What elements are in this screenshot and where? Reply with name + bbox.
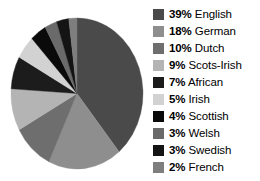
chart-legend: 39% English18% German10% Dutch9% Scots-I… xyxy=(153,6,260,178)
legend-item-text: 9% Scots-Irish xyxy=(169,59,242,72)
legend-item[interactable]: 3% Welsh xyxy=(153,125,260,142)
pie-chart-figure: 39% English18% German10% Dutch9% Scots-I… xyxy=(0,0,260,181)
legend-item-text: 18% German xyxy=(169,25,236,38)
legend-item-text: 5% Irish xyxy=(169,93,210,106)
legend-item[interactable]: 5% Irish xyxy=(153,91,260,108)
legend-item-percent: 5% xyxy=(169,93,185,105)
legend-item-label: German xyxy=(192,25,236,37)
legend-item-label: African xyxy=(185,76,223,88)
legend-item-percent: 2% xyxy=(169,161,185,173)
legend-swatch-french xyxy=(153,162,164,173)
legend-item-label: Scottish xyxy=(185,110,228,122)
legend-item-label: Irish xyxy=(185,93,209,105)
legend-item-label: English xyxy=(192,8,232,20)
legend-swatch-african xyxy=(153,77,164,88)
legend-item-percent: 4% xyxy=(169,110,185,122)
legend-swatch-irish xyxy=(153,94,164,105)
legend-item-text: 39% English xyxy=(169,8,232,21)
legend-item[interactable]: 18% German xyxy=(153,23,260,40)
legend-item-text: 3% Welsh xyxy=(169,127,220,140)
legend-swatch-scottish xyxy=(153,111,164,122)
legend-item[interactable]: 39% English xyxy=(153,6,260,23)
legend-item-label: Swedish xyxy=(185,144,231,156)
legend-item-label: Welsh xyxy=(185,127,219,139)
legend-item-percent: 9% xyxy=(169,59,185,71)
legend-item[interactable]: 10% Dutch xyxy=(153,40,260,57)
legend-item-label: Scots-Irish xyxy=(185,59,241,71)
legend-item-percent: 10% xyxy=(169,42,192,54)
legend-item-percent: 3% xyxy=(169,127,185,139)
legend-item-text: 10% Dutch xyxy=(169,42,224,55)
pie-chart-svg xyxy=(10,17,144,170)
legend-item-label: Dutch xyxy=(192,42,225,54)
legend-swatch-english xyxy=(153,9,164,20)
legend-swatch-dutch xyxy=(153,43,164,54)
legend-item-percent: 18% xyxy=(169,25,192,37)
legend-item-percent: 7% xyxy=(169,76,185,88)
legend-item[interactable]: 7% African xyxy=(153,74,260,91)
legend-item-text: 7% African xyxy=(169,76,223,89)
legend-item-text: 2% French xyxy=(169,161,224,174)
legend-swatch-scots-irish xyxy=(153,60,164,71)
legend-item-percent: 39% xyxy=(169,8,192,20)
legend-item-text: 4% Scottish xyxy=(169,110,229,123)
legend-item-percent: 3% xyxy=(169,144,185,156)
legend-item[interactable]: 3% Swedish xyxy=(153,142,260,159)
legend-item-label: French xyxy=(185,161,223,173)
legend-swatch-german xyxy=(153,26,164,37)
pie-chart-plot-area xyxy=(10,17,144,170)
legend-swatch-welsh xyxy=(153,128,164,139)
pie-slice-group xyxy=(11,18,143,169)
legend-item[interactable]: 9% Scots-Irish xyxy=(153,57,260,74)
legend-item-text: 3% Swedish xyxy=(169,144,231,157)
legend-item[interactable]: 4% Scottish xyxy=(153,108,260,125)
legend-item[interactable]: 2% French xyxy=(153,159,260,176)
legend-swatch-swedish xyxy=(153,145,164,156)
